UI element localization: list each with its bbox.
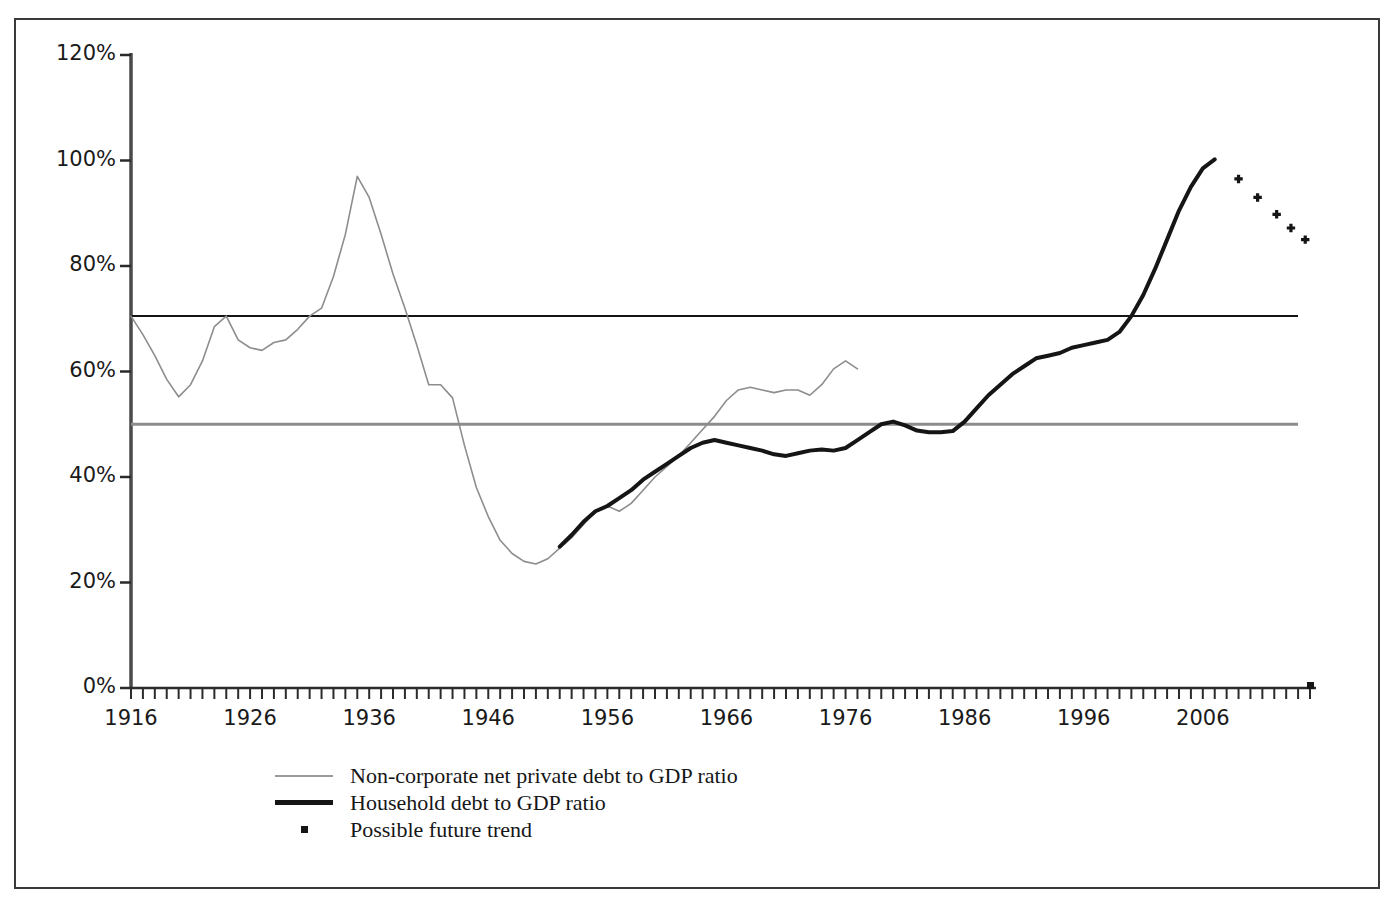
- chart-legend: Non-corporate net private debt to GDP ra…: [268, 762, 908, 843]
- x-axis-tick-label: 1956: [562, 706, 652, 730]
- chart-page: 0%20%40%60%80%100%120% 19161926193619461…: [0, 0, 1394, 908]
- x-axis-tick-label: 1986: [920, 706, 1010, 730]
- legend-item-household: Household debt to GDP ratio: [268, 789, 908, 816]
- y-axis-tick-label: 0%: [28, 674, 116, 698]
- legend-item-future-trend: Possible future trend: [268, 816, 908, 843]
- legend-swatch-dot-marker: [268, 826, 340, 833]
- x-axis-tick-label: 1926: [205, 706, 295, 730]
- series-noncorporate-debt-line: [131, 176, 857, 564]
- future-trend-marker: [1234, 175, 1242, 183]
- legend-swatch-gray-line: [268, 775, 340, 777]
- x-axis-tick-label: 1946: [443, 706, 533, 730]
- future-trend-dot: [1301, 235, 1309, 243]
- future-trend-dot: [1272, 210, 1280, 218]
- legend-swatch-black-line: [268, 800, 340, 805]
- future-trend-dot: [1253, 193, 1261, 201]
- x-axis-tick-label: 2006: [1158, 706, 1248, 730]
- future-trend-marker: [1301, 235, 1309, 243]
- x-axis-tick-label: 1996: [1039, 706, 1129, 730]
- y-axis-tick-label: 60%: [28, 358, 116, 382]
- x-axis-tick-label: 1966: [681, 706, 771, 730]
- legend-item-noncorporate: Non-corporate net private debt to GDP ra…: [268, 762, 908, 789]
- future-trend-marker: [1253, 193, 1261, 201]
- series-household-debt-line: [560, 159, 1215, 546]
- x-axis-tick-label: 1936: [324, 706, 414, 730]
- future-trend-marker: [1287, 224, 1295, 232]
- legend-label-noncorporate: Non-corporate net private debt to GDP ra…: [350, 763, 738, 789]
- x-axis-end-marker: [1307, 682, 1314, 689]
- future-trend-dot: [1234, 175, 1242, 183]
- y-axis-tick-label: 120%: [28, 41, 116, 65]
- legend-label-household: Household debt to GDP ratio: [350, 790, 606, 816]
- y-axis-tick-label: 100%: [28, 147, 116, 171]
- y-axis-tick-label: 40%: [28, 463, 116, 487]
- x-axis-tick-label: 1916: [86, 706, 176, 730]
- y-axis-tick-label: 20%: [28, 569, 116, 593]
- x-axis-tick-label: 1976: [801, 706, 891, 730]
- legend-label-future-trend: Possible future trend: [350, 817, 532, 843]
- future-trend-marker: [1272, 210, 1280, 218]
- future-trend-dot: [1287, 224, 1295, 232]
- y-axis-tick-label: 80%: [28, 252, 116, 276]
